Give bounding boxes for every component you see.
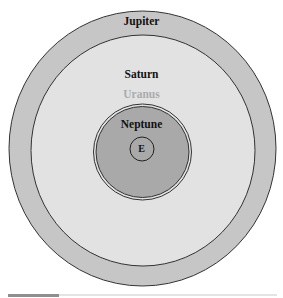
neptune-label: Neptune: [0, 117, 283, 131]
saturn-label: Saturn: [0, 67, 283, 81]
progress-fill: [8, 294, 59, 297]
earth-label: E: [0, 142, 283, 156]
jupiter-label: Jupiter: [0, 14, 283, 28]
progress-bar: [8, 294, 277, 296]
uranus-label: Uranus: [0, 87, 283, 101]
